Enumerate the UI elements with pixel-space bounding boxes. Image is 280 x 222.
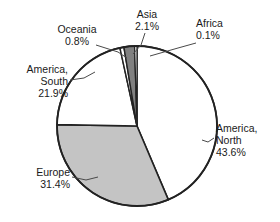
pie-label-africa: Africa 0.1% xyxy=(196,17,250,41)
pie-label-oceania: Oceania 0.8% xyxy=(48,23,106,47)
pie-chart-figure: Asia 2.1% Africa 0.1% Oceania 0.8% Ameri… xyxy=(0,0,280,222)
pie-label-america-south: America, South 21.9% xyxy=(6,63,68,100)
pie-label-america-north: America, North 43.6% xyxy=(216,122,278,159)
pie-label-asia: Asia 2.1% xyxy=(124,8,170,32)
pie-label-europe: Europe 31.4% xyxy=(8,166,70,190)
